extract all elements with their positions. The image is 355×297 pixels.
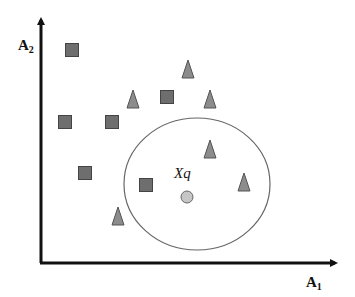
square-point [140,179,153,192]
triangle-point [112,207,124,225]
square-point [66,44,79,57]
diagram-svg: A2 A1 Xq [0,0,355,297]
x-axis-label: A1 [306,274,322,292]
triangle-point [238,173,250,191]
square-point [59,116,72,129]
query-point-label: Xq [173,165,191,181]
triangle-point [204,90,216,108]
y-axis-label: A2 [18,37,34,55]
triangle-point [182,60,194,78]
knn-diagram: A2 A1 Xq [0,0,355,297]
triangle-point [127,90,139,108]
square-point [79,167,92,180]
square-point [106,116,119,129]
query-point [181,191,193,203]
square-point [161,91,174,104]
triangle-point [204,140,216,158]
